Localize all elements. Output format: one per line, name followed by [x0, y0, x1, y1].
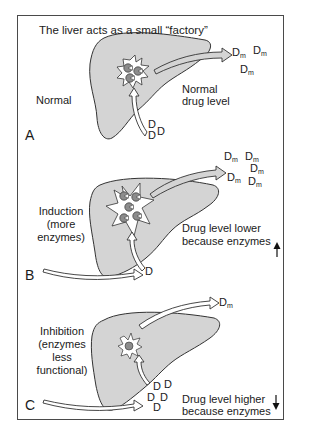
drug-label: D	[145, 266, 153, 277]
condition-label-b-1: Induction	[36, 205, 86, 217]
drug-label: D	[160, 392, 168, 403]
panel-letter-a: A	[25, 128, 34, 142]
enzyme-icon	[134, 67, 143, 75]
enzyme-icon	[120, 192, 129, 200]
metabolite-symbol: D	[240, 63, 248, 75]
metabolite-label: Dm	[240, 64, 254, 78]
metabolite-sub: m	[240, 52, 246, 59]
metabolite-sub: m	[235, 177, 241, 184]
metabolite-sub: m	[248, 69, 254, 76]
condition-label-c-4: functional)	[36, 364, 88, 376]
level-text-c-2: because enzymes	[182, 405, 271, 417]
down-arrow-icon	[273, 395, 280, 410]
panel-letter-c: C	[25, 398, 35, 412]
metabolite-label: Dm	[248, 176, 262, 190]
metabolite-symbol: D	[245, 150, 253, 162]
metabolite-symbol: D	[250, 162, 258, 174]
enzyme-icon	[120, 214, 129, 222]
drug-label: D	[148, 130, 156, 141]
level-text-a-1: Normal	[182, 83, 217, 95]
metabolite-symbol: D	[232, 46, 240, 58]
level-text-b-1: Drug level lower	[182, 222, 261, 234]
panel-letter-b: B	[25, 268, 34, 282]
metabolite-symbol: D	[219, 296, 227, 308]
metabolite-sub: m	[256, 181, 262, 188]
metabolite-label: Dm	[232, 47, 246, 61]
drug-label: D	[164, 379, 172, 390]
level-text-a-2: drug level	[182, 95, 230, 107]
metabolite-symbol: D	[248, 175, 256, 187]
metabolite-sub: m	[227, 302, 233, 309]
enzyme-icon	[133, 212, 142, 220]
condition-label-b-3: enzymes)	[36, 231, 86, 243]
up-arrow-icon	[274, 242, 281, 257]
drug-label: D	[157, 126, 165, 137]
metabolite-symbol: D	[253, 44, 261, 56]
metabolite-sub: m	[232, 156, 238, 163]
metabolite-label: Dm	[253, 45, 267, 59]
condition-label-c-3: less	[36, 351, 88, 363]
metabolite-label: Dm	[224, 151, 238, 165]
condition-label-b-2: (more	[36, 218, 86, 230]
enzyme-icon	[124, 64, 133, 72]
metabolite-symbol: D	[224, 150, 232, 162]
inhibited-enzyme-icon	[125, 342, 133, 350]
metabolite-sub: m	[258, 168, 264, 175]
enzyme-icon	[126, 74, 135, 82]
condition-label-c-2: (enzymes	[36, 338, 88, 350]
condition-label-c-1: Inhibition	[36, 325, 88, 337]
condition-label-a: Normal	[36, 94, 71, 106]
enzyme-icon	[125, 203, 134, 211]
metabolite-symbol: D	[227, 171, 235, 183]
enzyme-icon	[132, 193, 141, 201]
level-text-c-1: Drug level higher	[182, 393, 265, 405]
metabolite-label: Dm	[219, 297, 233, 311]
metabolite-sub: m	[261, 50, 267, 57]
metabolite-label: Dm	[227, 172, 241, 186]
drug-entry-arrow-c	[43, 400, 143, 411]
level-text-b-2: because enzymes	[182, 235, 271, 247]
figure-title: The liver acts as a small “factory”	[39, 24, 208, 36]
drug-label: D	[153, 402, 161, 413]
